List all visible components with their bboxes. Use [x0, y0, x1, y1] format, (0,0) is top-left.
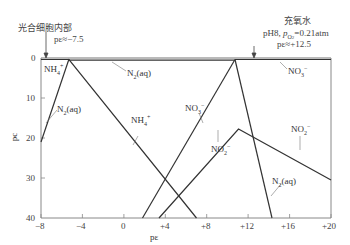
label-no3-mid: NO3−: [185, 103, 204, 113]
annotation-right-conditions: pH8, pO2=0.21atm: [263, 28, 329, 38]
annotation-left-title: 光合细胞内部: [18, 23, 72, 33]
x-tick-p8: +8: [201, 221, 211, 231]
data-lines: [41, 59, 331, 218]
label-no2-mid: NO2−: [211, 144, 230, 154]
y-tick-40: 40: [26, 213, 35, 223]
x-tick-m4: −4: [76, 221, 86, 231]
annotation-right-value: pε≈+12.5: [277, 39, 311, 49]
line-no3-left: [143, 60, 236, 219]
line-nh4: [41, 60, 197, 219]
x-tick-p4: +4: [160, 221, 170, 231]
x-tick-p16: +16: [281, 221, 295, 231]
label-n2-top: N2(aq): [127, 68, 151, 78]
label-n2-left: N2(aq): [57, 104, 81, 114]
label-nh4-mid: NH4+: [131, 115, 150, 125]
y-ticks: [41, 98, 45, 178]
y-tick-0: 0: [31, 53, 36, 63]
label-no2-right: NO2−: [291, 124, 310, 134]
line-n2-right: [235, 60, 272, 219]
y-axis-label: pc: [9, 133, 19, 142]
x-ticks: [41, 214, 331, 218]
annotation-right-title: 充氧水: [284, 16, 311, 26]
label-nh4-top: NH4+: [44, 64, 63, 74]
plot-frame: [41, 58, 331, 218]
x-tick-p12: +12: [240, 221, 254, 231]
line-no2: [159, 129, 331, 218]
y-tick-10: 10: [26, 93, 35, 103]
annotation-left-value: pε≈−7.5: [54, 34, 84, 44]
x-tick-p20: +20: [322, 221, 336, 231]
y-tick-30: 30: [26, 173, 35, 183]
x-tick-0: 0: [121, 221, 126, 231]
label-n2-right: N2(aq): [272, 176, 296, 186]
x-tick-m8: −8: [35, 221, 45, 231]
y-tick-20: 20: [26, 133, 35, 143]
label-no3-top: NO3−: [288, 66, 307, 76]
x-axis-label: pε: [150, 232, 158, 242]
